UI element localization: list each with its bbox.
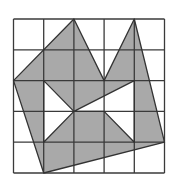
grid-figure [0, 0, 172, 183]
